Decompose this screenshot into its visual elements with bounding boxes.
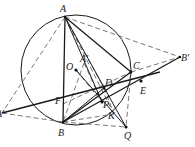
point-O [74, 68, 77, 71]
label-Aprime: A' [79, 53, 89, 64]
line-B-C [63, 72, 131, 122]
label-B: B [58, 127, 64, 138]
label-F: F [54, 95, 62, 106]
point-Q [124, 125, 127, 128]
line-A-B [63, 17, 65, 122]
label-Q: Q [124, 130, 132, 141]
point-B [62, 121, 64, 123]
label-O: O [66, 61, 73, 72]
label-K: K [107, 110, 116, 121]
geometry-diagram: A B C O A' D P E F K Q B' A' [0, 0, 195, 147]
point-A [64, 16, 66, 18]
line-B-Bprime [63, 57, 180, 122]
line-A-C [65, 17, 131, 72]
point-C [130, 71, 133, 74]
point-markers [62, 16, 181, 129]
line-A-Bprime [65, 17, 180, 57]
label-A: A [59, 3, 67, 14]
label-C: C [133, 60, 140, 71]
label-D: D [104, 77, 113, 88]
label-E: E [139, 85, 146, 96]
label-P: P [102, 99, 109, 110]
line-Aprime-outer-B [2, 113, 63, 122]
point-E [139, 79, 142, 82]
diagram-canvas: A B C O A' D P E F K Q B' A' [0, 0, 195, 147]
label-Bprime: B' [181, 52, 190, 63]
